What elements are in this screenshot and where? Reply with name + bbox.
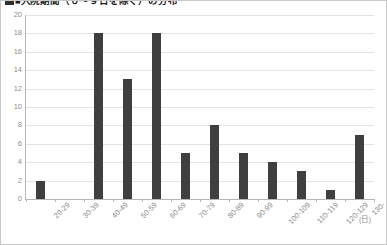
bar — [355, 135, 364, 199]
y-axis-tick-label: 10 — [2, 103, 22, 111]
gridline — [26, 181, 374, 182]
x-axis-tick-label: 80-89 — [226, 201, 245, 220]
bar — [36, 181, 45, 199]
gridline — [26, 125, 374, 126]
y-axis-tick-label: 6 — [2, 140, 22, 148]
x-axis-tick-label: 50-59 — [139, 201, 158, 220]
x-axis-tick-label: 100-109 — [287, 201, 312, 226]
x-axis-tick-label: 20-29 — [52, 201, 71, 220]
y-axis-tick-label: 4 — [2, 158, 22, 166]
chart-title: ■入院期間（０～９日を除く）の分布 — [5, 0, 177, 5]
bar — [326, 190, 335, 199]
y-axis: 02468101214161820 — [1, 15, 22, 200]
x-axis-tick-label: 130- — [370, 201, 386, 217]
y-axis-tick-label: 20 — [2, 11, 22, 19]
y-axis-tick-label: 12 — [2, 85, 22, 93]
x-axis-unit-label: (日) — [359, 213, 371, 224]
x-axis-labels: 20-2930-3940-4950-5960-6970-7980-8990-99… — [25, 201, 374, 233]
gridline — [26, 33, 374, 34]
bar — [210, 125, 219, 199]
plot-area — [25, 15, 374, 200]
title-bullet-icon — [5, 0, 14, 5]
y-axis-tick-label: 2 — [2, 177, 22, 185]
gridline — [26, 107, 374, 108]
x-axis-tick-label: 60-69 — [168, 201, 187, 220]
chart-figure: ■入院期間（０～９日を除く）の分布 02468101214161820 20-2… — [0, 0, 387, 245]
bar — [123, 79, 132, 199]
gridline — [26, 70, 374, 71]
y-axis-tick-label: 0 — [2, 195, 22, 203]
bar — [268, 162, 277, 199]
bar — [239, 153, 248, 199]
x-axis-tick-label: 110-119 — [315, 201, 339, 225]
bar — [181, 153, 190, 199]
x-axis-tick-label: 70-79 — [197, 201, 216, 220]
chart-title-text: ■入院期間（０～９日を除く）の分布 — [15, 0, 177, 5]
bar — [152, 33, 161, 199]
gridline — [26, 89, 374, 90]
gridline — [26, 162, 374, 163]
y-axis-tick-label: 16 — [2, 48, 22, 56]
gridline — [26, 52, 374, 53]
bar — [94, 33, 103, 199]
x-axis-tick-label: 40-49 — [110, 201, 129, 220]
y-axis-tick-label: 14 — [2, 66, 22, 74]
gridline — [26, 144, 374, 145]
y-axis-tick-label: 18 — [2, 30, 22, 38]
x-axis-tick-label: 90-99 — [255, 201, 274, 220]
bar — [297, 171, 306, 199]
x-axis-tick-mark — [374, 199, 375, 202]
y-axis-tick-label: 8 — [2, 122, 22, 130]
gridline — [26, 15, 374, 16]
x-axis-tick-label: 30-39 — [81, 201, 100, 220]
